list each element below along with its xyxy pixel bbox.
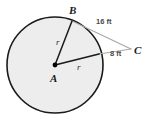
- measure-label-tc: 8 ft: [110, 50, 121, 58]
- geometry-figure: A B C r r 16 ft 8 ft: [0, 0, 146, 123]
- vertex-label-c: C: [134, 45, 141, 56]
- radius-label-lower: r: [77, 63, 81, 72]
- measure-label-bc: 16 ft: [96, 18, 111, 26]
- vertex-label-a: A: [50, 73, 57, 84]
- radius-label-upper: r: [56, 38, 60, 47]
- geometry-canvas: [0, 0, 146, 123]
- center-dot: [53, 63, 58, 68]
- vertex-label-b: B: [69, 5, 76, 16]
